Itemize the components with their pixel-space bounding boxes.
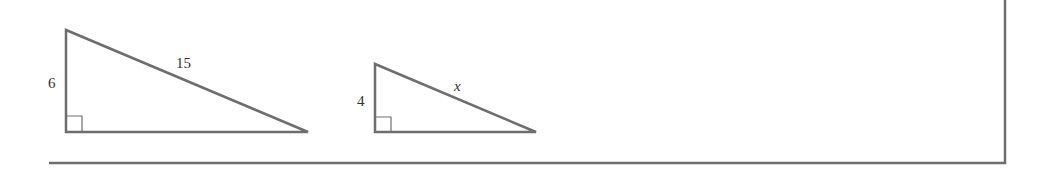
leg-label-4: 4 xyxy=(357,93,365,109)
leg-label-6: 6 xyxy=(48,75,56,91)
right-angle-marker-2 xyxy=(375,117,391,132)
similar-triangles-figure: 6 15 4 x xyxy=(0,0,1042,174)
hypotenuse-label-15: 15 xyxy=(176,55,191,71)
hypotenuse-label-x: x xyxy=(453,78,461,94)
triangle-1: 6 15 xyxy=(48,30,308,132)
right-angle-marker-1 xyxy=(66,116,82,132)
triangle-2: 4 x xyxy=(357,64,536,132)
